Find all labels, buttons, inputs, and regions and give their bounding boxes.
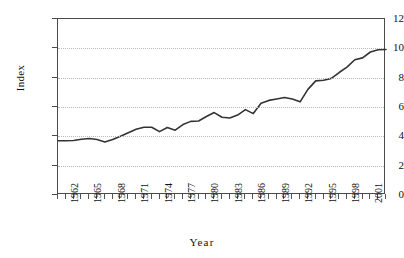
x-tick-label: 1968 — [116, 183, 127, 203]
x-tick-mark — [244, 194, 245, 199]
x-tick-mark — [362, 194, 363, 199]
x-tick-mark — [159, 194, 160, 199]
x-tick-label: 1983 — [233, 183, 244, 203]
gridline — [58, 78, 384, 79]
x-tick-mark — [276, 194, 277, 199]
x-tick-mark — [385, 194, 386, 199]
x-tick-label: 1974 — [163, 183, 174, 203]
x-tick-mark — [268, 194, 269, 199]
x-tick-label: 1977 — [186, 183, 197, 203]
x-tick-mark — [221, 194, 222, 199]
x-tick-mark — [346, 194, 347, 199]
x-tick-mark — [88, 194, 89, 199]
x-tick-mark — [252, 194, 253, 199]
x-tick-mark — [182, 194, 183, 199]
y-tick-label: 2 — [358, 159, 404, 171]
x-tick-mark — [315, 194, 316, 199]
gridline — [58, 136, 384, 137]
y-tick-mark — [52, 47, 57, 48]
x-tick-mark — [291, 194, 292, 199]
x-tick-label: 1971 — [139, 183, 150, 203]
y-tick-label: 10 — [358, 41, 404, 53]
x-tick-label: 2001 — [373, 183, 384, 203]
x-tick-mark — [205, 194, 206, 199]
x-tick-label: 1986 — [256, 183, 267, 203]
gridline — [58, 166, 384, 167]
x-tick-mark — [323, 194, 324, 199]
y-tick-label: 8 — [358, 71, 404, 83]
plot-area — [57, 18, 385, 194]
y-tick-mark — [52, 135, 57, 136]
x-tick-label: 1965 — [92, 183, 103, 203]
x-tick-mark — [369, 194, 370, 199]
x-tick-label: 1992 — [303, 183, 314, 203]
x-tick-mark — [174, 194, 175, 199]
x-tick-label: 1995 — [327, 183, 338, 203]
chart-figure: Index 024681012 196219651968197119741977… — [0, 0, 404, 258]
x-tick-mark — [198, 194, 199, 199]
x-tick-mark — [65, 194, 66, 199]
gridline — [58, 107, 384, 108]
y-tick-mark — [52, 77, 57, 78]
x-tick-mark — [338, 194, 339, 199]
x-tick-mark — [135, 194, 136, 199]
x-axis-title: Year — [0, 236, 404, 248]
x-tick-label: 1998 — [350, 183, 361, 203]
x-tick-mark — [151, 194, 152, 199]
gridline — [58, 48, 384, 49]
x-tick-mark — [104, 194, 105, 199]
x-tick-label: 1962 — [69, 183, 80, 203]
y-tick-mark — [52, 106, 57, 107]
y-axis-title: Index — [14, 38, 26, 118]
x-tick-mark — [229, 194, 230, 199]
y-tick-label: 6 — [358, 100, 404, 112]
x-tick-mark — [57, 194, 58, 199]
x-tick-mark — [80, 194, 81, 199]
x-tick-label: 1989 — [280, 183, 291, 203]
x-tick-label: 1980 — [209, 183, 220, 203]
x-tick-mark — [127, 194, 128, 199]
x-tick-mark — [112, 194, 113, 199]
y-tick-label: 4 — [358, 129, 404, 141]
x-tick-mark — [299, 194, 300, 199]
y-tick-mark — [52, 165, 57, 166]
y-tick-mark — [52, 18, 57, 19]
y-tick-label: 12 — [358, 12, 404, 24]
